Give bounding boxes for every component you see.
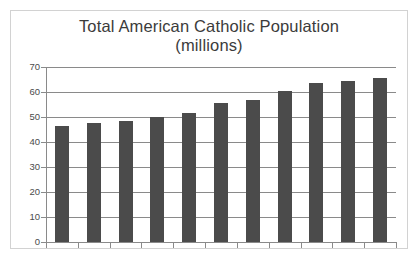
y-axis-tick-label: 20 — [18, 187, 40, 197]
x-axis-tick — [173, 243, 174, 248]
bar — [373, 78, 387, 242]
y-axis-tick — [41, 167, 46, 168]
x-axis-tick — [141, 243, 142, 248]
bar — [119, 121, 133, 242]
x-axis-tick — [364, 243, 365, 248]
y-axis-tick — [41, 117, 46, 118]
plot-area — [46, 67, 396, 242]
y-axis-tick — [41, 242, 46, 243]
y-axis-tick — [41, 67, 46, 68]
y-axis-tick-label: 0 — [18, 237, 40, 247]
bar — [246, 100, 260, 243]
x-axis-tick — [269, 243, 270, 248]
y-axis-tick — [41, 217, 46, 218]
x-axis-tick — [110, 243, 111, 248]
bar — [214, 103, 228, 242]
y-axis-tick — [41, 92, 46, 93]
chart-card: Total American Catholic Population (mill… — [10, 10, 408, 249]
x-axis-tick — [237, 243, 238, 248]
y-axis-tick — [41, 142, 46, 143]
y-axis-labels: 010203040506070 — [16, 67, 40, 242]
y-axis-tick-label: 30 — [18, 162, 40, 172]
bar-chart-plot: 010203040506070 — [11, 11, 408, 249]
x-axis-tick — [332, 243, 333, 248]
gridline — [46, 67, 396, 68]
y-axis-tick-label: 60 — [18, 87, 40, 97]
bar — [278, 91, 292, 242]
gridline — [46, 242, 396, 243]
x-axis-tick — [205, 243, 206, 248]
x-axis-tick — [396, 243, 397, 248]
y-axis-tick-label: 50 — [18, 112, 40, 122]
bar — [182, 113, 196, 242]
bar — [55, 126, 69, 242]
y-axis-tick-label: 40 — [18, 137, 40, 147]
bar — [341, 81, 355, 242]
y-axis-tick-label: 10 — [18, 212, 40, 222]
bar — [87, 123, 101, 242]
x-axis-tick — [301, 243, 302, 248]
y-axis-tick-label: 70 — [18, 62, 40, 72]
x-axis-tick — [46, 243, 47, 248]
x-axis-tick — [78, 243, 79, 248]
y-axis-tick — [41, 192, 46, 193]
bar — [309, 83, 323, 242]
bar — [150, 117, 164, 242]
